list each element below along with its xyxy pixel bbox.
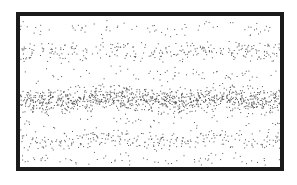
diagram-frame (16, 12, 284, 171)
stipple-dots (20, 16, 280, 167)
